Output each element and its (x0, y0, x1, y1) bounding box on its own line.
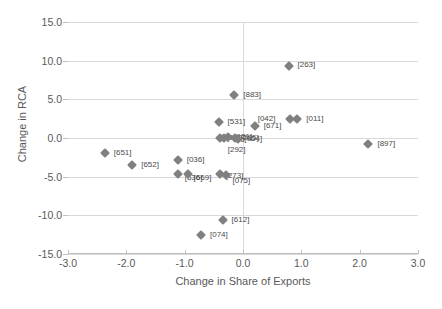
x-tick-label: -2.0 (117, 257, 135, 269)
data-point-marker (250, 121, 260, 131)
data-point-marker (173, 169, 183, 179)
data-point-label: [883] (243, 91, 261, 99)
scatter-chart: [263][883][011][042][531][671][292][010]… (0, 0, 442, 309)
x-tick-mark (68, 250, 69, 254)
data-point-marker (284, 61, 294, 71)
x-tick-label: -1.0 (176, 257, 194, 269)
data-point-marker (196, 230, 206, 240)
data-point-label: [054] (244, 135, 262, 143)
x-axis-title: Change in Share of Exports (68, 275, 418, 287)
y-tick-label: -10.0 (38, 209, 62, 221)
data-point-label: [075] (233, 177, 251, 185)
x-tick-label: -3.0 (59, 257, 77, 269)
data-point-label: [531] (228, 118, 246, 126)
x-tick-label: 0.0 (236, 257, 251, 269)
y-tick-label: 15.0 (42, 16, 62, 28)
data-point-label: [612] (232, 216, 250, 224)
x-tick-mark (126, 250, 127, 254)
x-tick-mark (185, 250, 186, 254)
data-point-marker (100, 148, 110, 158)
y-tick-mark (63, 215, 68, 216)
x-axis-ticks: -3.0-2.0-1.00.01.02.03.0 (68, 256, 418, 274)
y-tick-mark (63, 22, 68, 23)
data-point-label: [011] (306, 115, 323, 123)
data-point-label: [651] (114, 149, 132, 157)
y-tick-mark (63, 254, 68, 255)
data-point-label: [036] (187, 156, 205, 164)
data-point-marker (285, 114, 295, 124)
y-axis-title: Change in RCA (16, 54, 28, 194)
x-tick-label: 2.0 (352, 257, 367, 269)
plot-area: [263][883][011][042][531][671][292][010]… (68, 22, 418, 254)
data-point-marker (214, 117, 224, 127)
x-tick-label: 1.0 (294, 257, 309, 269)
x-tick-mark (301, 250, 302, 254)
y-tick-mark (63, 99, 68, 100)
x-tick-label: 3.0 (411, 257, 426, 269)
data-point-label: [074] (210, 231, 228, 239)
x-tick-mark (243, 250, 244, 254)
data-point-label: [671] (264, 122, 282, 130)
data-point-label: [652] (141, 161, 159, 169)
data-point-label: [263] (298, 61, 316, 69)
gridline-horizontal (68, 254, 418, 255)
data-point-marker (363, 139, 373, 149)
y-tick-mark (63, 177, 68, 178)
data-point-label: [897] (377, 140, 395, 148)
data-point-label: [292] (228, 146, 246, 154)
data-point-marker (218, 215, 228, 225)
data-point-marker (127, 160, 137, 170)
y-tick-mark (63, 61, 68, 62)
y-tick-label: 10.0 (42, 55, 62, 67)
y-tick-label: -5.0 (44, 171, 62, 183)
x-tick-mark (360, 250, 361, 254)
data-point-label: [669] (194, 174, 212, 182)
data-point-marker (173, 155, 183, 165)
x-tick-mark (418, 250, 419, 254)
y-tick-label: 5.0 (47, 93, 62, 105)
y-tick-mark (63, 138, 68, 139)
y-tick-label: 0.0 (47, 132, 62, 144)
